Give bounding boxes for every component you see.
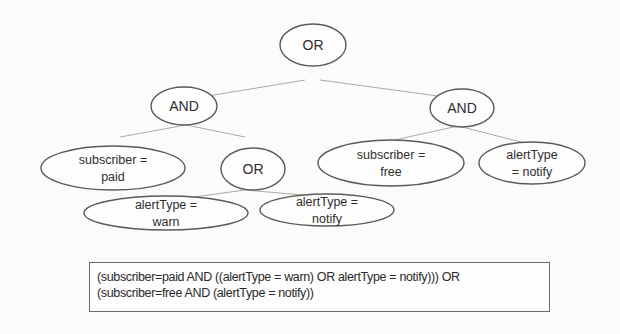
- node-label: AND: [169, 98, 199, 114]
- edge-right-and-to-alerttype-notify-right: [458, 126, 525, 143]
- node-label: warn: [151, 215, 179, 229]
- node-label: alertType: [506, 148, 557, 162]
- node-alerttype-notify-lower: alertType =notify: [260, 194, 394, 226]
- node-middle-or: OR: [221, 148, 285, 190]
- edge-right-and-to-subscriber-free: [390, 126, 458, 141]
- boolean-expression-box: (subscriber=paid AND ((alertType = warn)…: [89, 262, 550, 312]
- node-label: alertType =: [135, 198, 197, 212]
- node-label: AND: [447, 100, 477, 116]
- node-label: paid: [101, 170, 125, 184]
- node-right-and: AND: [430, 89, 494, 127]
- node-label: subscriber =: [79, 153, 147, 167]
- node-label: = notify: [512, 165, 553, 179]
- node-label: OR: [243, 161, 264, 177]
- node-label: OR: [303, 37, 324, 53]
- node-label: free: [380, 165, 402, 179]
- expression-line-1: (subscriber=paid AND ((alertType = warn)…: [97, 269, 549, 285]
- node-label: alertType =: [296, 195, 358, 209]
- node-root-or: OR: [280, 24, 346, 66]
- node-left-and: AND: [151, 87, 217, 125]
- tree-nodes: ORANDANDsubscriber =paidORsubscriber =fr…: [41, 24, 585, 230]
- edge-left-and-to-subscriber-paid: [120, 125, 186, 137]
- node-alerttype-warn: alertType =warn: [84, 196, 248, 230]
- edge-left-and-to-middle-or: [186, 125, 245, 137]
- node-subscriber-paid: subscriber =paid: [41, 146, 185, 190]
- expression-line-2: (subscriber=free AND (alertType = notify…: [97, 285, 549, 301]
- node-alerttype-notify-right: alertType= notify: [479, 142, 585, 184]
- node-subscriber-free: subscriber =free: [318, 140, 464, 186]
- node-label: subscriber =: [357, 148, 425, 162]
- node-label: notify: [312, 212, 343, 226]
